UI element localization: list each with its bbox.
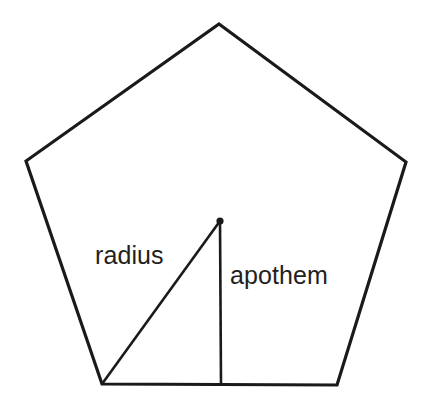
apothem-label: apothem	[230, 261, 328, 289]
apothem-segment	[220, 221, 221, 384]
diagram-canvas: radius apothem	[0, 0, 431, 405]
radius-label: radius	[95, 241, 164, 269]
pentagon-diagram: radius apothem	[0, 0, 431, 405]
center-point-dot	[216, 217, 223, 224]
